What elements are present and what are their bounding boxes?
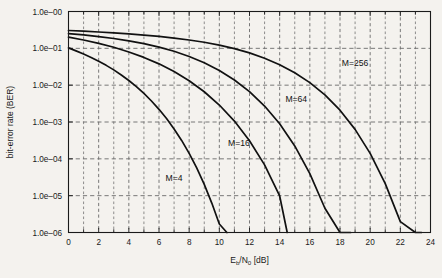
x-tick-label: 8: [187, 238, 192, 247]
y-tick-label: 1.0e–04: [32, 155, 62, 164]
curve-label-m16: M=16: [228, 138, 250, 148]
ber-vs-ebn0-chart: M=4M=16M=64M=256 024681012141618202224 1…: [0, 0, 442, 278]
curve-label-m256: M=256: [342, 58, 369, 68]
y-tick-label: 1.0e–00: [32, 8, 62, 17]
chart-background: [0, 0, 442, 278]
x-tick-label: 22: [396, 238, 406, 247]
y-tick-label: 1.0e–01: [32, 44, 62, 53]
y-tick-label: 1.0e–05: [32, 192, 62, 201]
x-tick-label: 10: [215, 238, 225, 247]
x-tick-label: 14: [275, 238, 285, 247]
x-tick-label: 20: [366, 238, 376, 247]
y-axis-label: bit-error rate (BER): [5, 86, 15, 158]
y-tick-label: 1.0e–03: [32, 118, 62, 127]
x-tick-label: 16: [305, 238, 315, 247]
curve-label-m4: M=4: [166, 173, 183, 183]
x-tick-label: 18: [335, 238, 345, 247]
curve-label-m64: M=64: [285, 94, 307, 104]
x-tick-label: 4: [127, 238, 132, 247]
x-tick-label: 12: [245, 238, 255, 247]
y-tick-label: 1.0e–06: [32, 229, 62, 238]
x-tick-label: 0: [66, 238, 71, 247]
x-tick-label: 2: [96, 238, 101, 247]
ber-chart-figure: M=4M=16M=64M=256 024681012141618202224 1…: [0, 0, 442, 278]
y-tick-label: 1.0e–02: [32, 81, 62, 90]
x-tick-label: 6: [157, 238, 162, 247]
x-tick-label: 24: [426, 238, 436, 247]
